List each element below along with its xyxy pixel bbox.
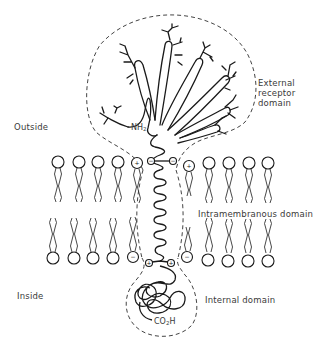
internal-domain-coil: [135, 266, 185, 320]
lipid-heads-inner: [47, 252, 274, 268]
label-co2h: CO2H: [154, 317, 175, 326]
label-internal-domain: Internal domain: [205, 295, 275, 305]
charge-outer-3: −: [170, 157, 175, 164]
h-text: H: [169, 317, 175, 326]
intramembranous-boundary-right: [176, 170, 183, 258]
label-external-line1: External: [258, 78, 295, 88]
label-nh2: NH2: [131, 123, 147, 132]
label-outside: Outside: [14, 122, 48, 132]
charge-outer-1: +: [134, 159, 139, 166]
charge-inner-4: −: [184, 253, 189, 260]
co-text: CO: [154, 317, 166, 326]
charge-inner-3: +: [168, 259, 173, 266]
label-intramembranous-domain: Intramembranous domain: [198, 209, 313, 219]
charge-symbols: + − − + − + + −: [130, 157, 191, 266]
nh-text: NH: [131, 123, 143, 132]
lipid-tails-inner: [50, 217, 272, 253]
label-inside: Inside: [17, 291, 44, 301]
charge-outer-2: −: [148, 157, 153, 164]
charge-inner-1: −: [130, 253, 135, 260]
nh-subscript: 2: [143, 126, 147, 132]
label-external-receptor-domain: External receptor domain: [258, 78, 295, 108]
label-external-line3: domain: [258, 98, 295, 108]
charge-outer-4: +: [186, 162, 191, 169]
charge-inner-2: +: [146, 259, 151, 266]
transmembrane-helix: [152, 161, 170, 262]
external-domain-boundary: [87, 15, 256, 170]
label-external-line2: receptor: [258, 88, 295, 98]
